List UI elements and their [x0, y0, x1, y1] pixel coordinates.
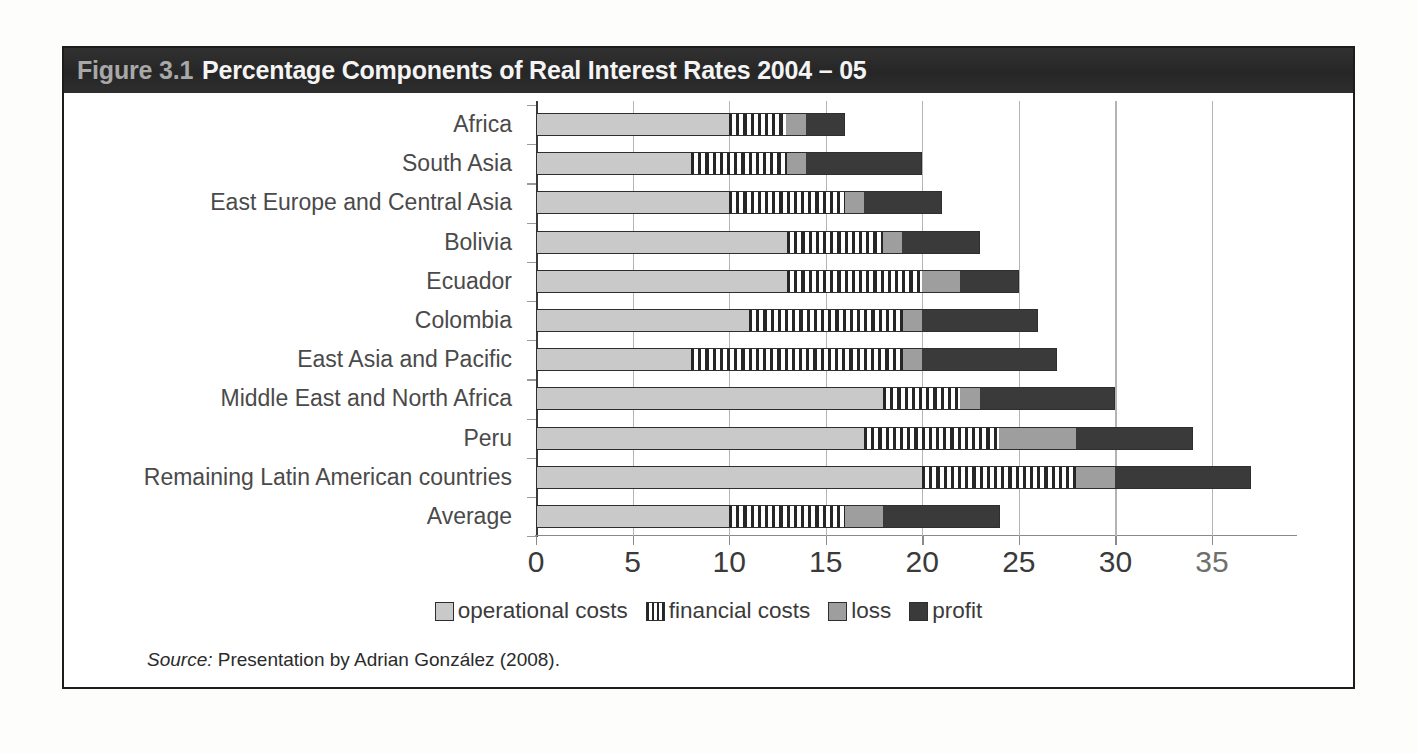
- bar-segment-profit: [922, 310, 1037, 331]
- category-label: East Europe and Central Asia: [64, 183, 522, 222]
- bar-segment-profit: [922, 349, 1057, 370]
- source-note: Source: Presentation by Adrian González …: [147, 649, 560, 671]
- legend-swatch-icon: [828, 602, 847, 621]
- bar-segment-operational-costs: [537, 192, 729, 213]
- bar-segment-profit: [960, 271, 1018, 292]
- y-axis-tick: [527, 379, 536, 380]
- category-label: Peru: [64, 419, 522, 458]
- figure-title-bar: Figure 3.1 Percentage Components of Real…: [64, 48, 1353, 93]
- y-axis-tick: [527, 419, 536, 420]
- figure-page: Figure 3.1 Percentage Components of Real…: [0, 0, 1417, 753]
- stacked-bar[interactable]: [536, 505, 1000, 528]
- bar-row: [536, 183, 1297, 222]
- bar-segment-profit: [883, 506, 998, 527]
- figure-title-text: Percentage Components of Real Interest R…: [202, 56, 866, 85]
- bar-segment-loss: [883, 232, 902, 253]
- legend-item[interactable]: loss: [828, 598, 891, 624]
- bar-segment-loss: [960, 388, 979, 409]
- category-label: Ecuador: [64, 262, 522, 301]
- y-axis-tick: [527, 497, 536, 498]
- stacked-bar[interactable]: [536, 309, 1038, 332]
- category-label: Average: [64, 497, 522, 536]
- y-axis-tick: [527, 223, 536, 224]
- x-axis-tick-label: 20: [906, 545, 939, 579]
- bar-segment-loss: [845, 192, 864, 213]
- y-axis-tick: [527, 458, 536, 459]
- x-axis-tick-label: 25: [1002, 545, 1035, 579]
- bar-row: [536, 419, 1297, 458]
- bar-segment-operational-costs: [537, 388, 883, 409]
- bar-segment-loss: [999, 428, 1076, 449]
- category-label: Bolivia: [64, 223, 522, 262]
- stacked-bar[interactable]: [536, 427, 1193, 450]
- bar-segment-operational-costs: [537, 232, 787, 253]
- category-label: Middle East and North Africa: [64, 379, 522, 418]
- plot-area: [536, 105, 1297, 536]
- legend-item[interactable]: profit: [909, 598, 982, 624]
- x-axis-tick: [1115, 536, 1116, 545]
- bar-row: [536, 340, 1297, 379]
- legend-label: loss: [851, 598, 891, 624]
- stacked-bar[interactable]: [536, 348, 1057, 371]
- stacked-bar[interactable]: [536, 191, 942, 214]
- bar-segment-loss: [786, 114, 805, 135]
- y-axis-tick: [527, 301, 536, 302]
- bar-segment-loss: [1076, 467, 1115, 488]
- bar-segment-financial-costs: [749, 310, 903, 331]
- x-axis-tick: [922, 536, 923, 545]
- y-axis-tick: [527, 536, 536, 537]
- x-axis-tick: [1212, 536, 1213, 545]
- figure-frame: Figure 3.1 Percentage Components of Real…: [62, 46, 1355, 689]
- legend-item[interactable]: operational costs: [435, 598, 628, 624]
- y-axis-tick: [527, 340, 536, 341]
- bar-segment-operational-costs: [537, 310, 749, 331]
- x-axis-tick-label: 5: [624, 545, 641, 579]
- x-axis-tick-label: 10: [712, 545, 745, 579]
- bar-segment-loss: [787, 153, 806, 174]
- stacked-bar[interactable]: [536, 113, 845, 136]
- bar-segment-financial-costs: [729, 506, 844, 527]
- x-axis-tick: [536, 536, 537, 545]
- bar-segment-financial-costs: [691, 153, 787, 174]
- bar-row: [536, 458, 1297, 497]
- legend-item[interactable]: financial costs: [646, 598, 810, 624]
- x-axis-tick-label: 15: [809, 545, 842, 579]
- bar-segment-financial-costs: [787, 232, 883, 253]
- figure-number-label: Figure 3.1: [77, 56, 193, 85]
- x-axis-tick-label: 35: [1195, 545, 1228, 579]
- bar-row: [536, 379, 1297, 418]
- legend-swatch-icon: [909, 602, 928, 621]
- stacked-bar[interactable]: [536, 466, 1251, 489]
- x-axis-tick: [633, 536, 634, 545]
- category-label: South Asia: [64, 144, 522, 183]
- bar-row: [536, 497, 1297, 536]
- x-axis-tick-labels: 05101520253035: [536, 545, 1336, 585]
- bar-segment-operational-costs: [537, 349, 691, 370]
- legend-swatch-icon: [435, 602, 454, 621]
- bar-segment-profit: [980, 388, 1115, 409]
- category-label: Remaining Latin American countries: [64, 458, 522, 497]
- x-axis-tick: [1019, 536, 1020, 545]
- bar-segment-financial-costs: [864, 428, 999, 449]
- x-axis-tick: [729, 536, 730, 545]
- bar-segment-loss: [922, 271, 960, 292]
- bar-segment-profit: [1115, 467, 1250, 488]
- bar-segment-loss: [845, 506, 883, 527]
- stacked-bar[interactable]: [536, 152, 922, 175]
- legend-swatch-icon: [646, 602, 665, 621]
- chart-legend: operational costsfinancial costslossprof…: [64, 598, 1353, 624]
- bar-segment-financial-costs: [729, 114, 787, 135]
- stacked-bar[interactable]: [536, 270, 1019, 293]
- category-label: East Asia and Pacific: [64, 340, 522, 379]
- legend-label: profit: [932, 598, 982, 624]
- bar-segment-operational-costs: [537, 506, 729, 527]
- legend-label: operational costs: [458, 598, 628, 624]
- bar-segment-operational-costs: [537, 153, 691, 174]
- x-axis-tick: [826, 536, 827, 545]
- stacked-bar[interactable]: [536, 231, 980, 254]
- bar-row: [536, 223, 1297, 262]
- bar-segment-profit: [806, 114, 844, 135]
- category-label: Colombia: [64, 301, 522, 340]
- stacked-bar[interactable]: [536, 387, 1115, 410]
- bar-segment-financial-costs: [922, 467, 1076, 488]
